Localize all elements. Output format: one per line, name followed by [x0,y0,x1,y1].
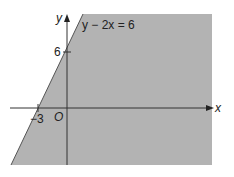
shaded-region [11,14,212,165]
y-axis-label: y [56,12,62,24]
y-axis-arrow-icon [64,14,70,22]
y-intercept-label: 6 [54,46,61,58]
equation-label: y − 2x = 6 [82,19,135,31]
x-intercept-label: −3 [30,113,44,125]
origin-label: O [54,111,63,123]
x-axis-label: x [215,102,221,114]
